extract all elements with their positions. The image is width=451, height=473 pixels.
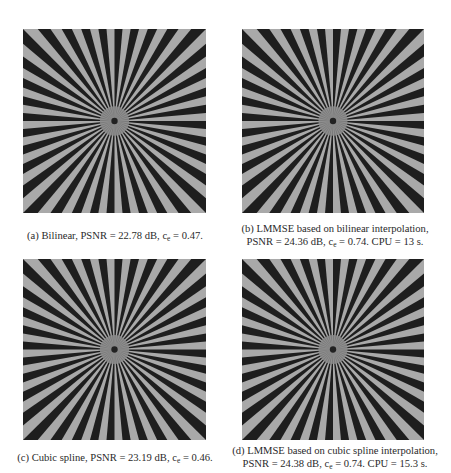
caption-text: (c) Cubic spline, PSNR = 23.19 dB, c xyxy=(17,452,177,463)
caption-subscript: e xyxy=(177,456,180,465)
siemens-star-image-a xyxy=(23,29,206,213)
siemens-star-image-c xyxy=(23,259,206,440)
caption-text: (d) LMMSE based on cubic spline interpol… xyxy=(232,445,438,456)
caption-subscript: e xyxy=(333,240,336,249)
caption-b: (b) LMMSE based on bilinear interpolatio… xyxy=(222,222,448,249)
caption-text: = 0.74. CPU = 13 s. xyxy=(336,236,423,247)
caption-text: PSNR = 24.36 dB, c xyxy=(247,236,334,247)
caption-a: (a) Bilinear, PSNR = 22.78 dB, ce = 0.47… xyxy=(0,229,230,243)
caption-subscript: e xyxy=(167,234,170,243)
caption-text: = 0.74. CPU = 15.3 s. xyxy=(333,458,428,469)
caption-c: (c) Cubic spline, PSNR = 23.19 dB, ce = … xyxy=(0,451,230,465)
caption-text: PSNR = 24.38 dB, c xyxy=(243,458,330,469)
caption-text: = 0.47. xyxy=(170,230,202,241)
siemens-star-image-d xyxy=(242,259,424,440)
caption-d: (d) LMMSE based on cubic spline interpol… xyxy=(222,444,448,471)
siemens-star-image-b xyxy=(242,29,424,213)
caption-text: (a) Bilinear, PSNR = 22.78 dB, c xyxy=(27,230,167,241)
caption-text: = 0.46. xyxy=(180,452,212,463)
caption-subscript: e xyxy=(329,462,332,471)
caption-text: (b) LMMSE based on bilinear interpolatio… xyxy=(241,223,428,234)
